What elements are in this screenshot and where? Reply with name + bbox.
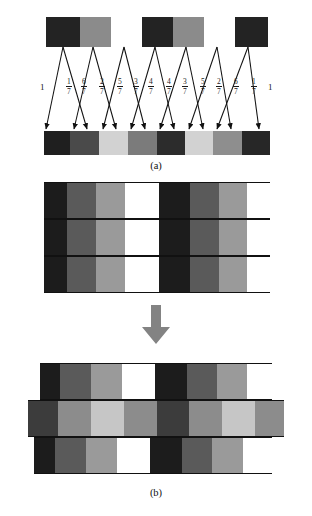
weight-denominator: 7 bbox=[233, 87, 239, 95]
weight-numerator: 3 bbox=[133, 78, 139, 87]
destination-cell bbox=[99, 131, 128, 155]
grid-cell bbox=[125, 183, 159, 218]
source-scanline-bar bbox=[46, 17, 268, 47]
offset-cell bbox=[189, 401, 222, 436]
weight-denominator: 7 bbox=[148, 87, 154, 95]
offset-cell bbox=[91, 364, 122, 399]
offset-cell bbox=[124, 401, 157, 436]
grid-cell bbox=[44, 220, 67, 255]
weight-denominator: 7 bbox=[182, 87, 188, 95]
destination-cell bbox=[157, 131, 185, 155]
grid-cell bbox=[219, 257, 247, 292]
weight-numerator: 2 bbox=[216, 78, 222, 87]
offset-block bbox=[0, 363, 312, 478]
weight-numerator: 5 bbox=[117, 78, 123, 87]
weight-label: 67 bbox=[81, 78, 87, 95]
destination-cell bbox=[185, 131, 213, 155]
offset-cell bbox=[182, 438, 212, 473]
offset-cell bbox=[86, 438, 117, 473]
aligned-block bbox=[44, 182, 270, 295]
grid-cell bbox=[247, 183, 270, 218]
weight-denominator: 7 bbox=[66, 87, 72, 95]
weight-numerator: 5 bbox=[200, 78, 206, 87]
weight-numerator: 2 bbox=[99, 78, 105, 87]
destination-cell bbox=[128, 131, 157, 155]
destination-cell bbox=[44, 131, 70, 155]
offset-cell bbox=[117, 438, 150, 473]
caption-a: (a) bbox=[0, 160, 312, 171]
grid-cell bbox=[159, 183, 190, 218]
down-arrow-svg bbox=[141, 305, 171, 345]
offset-cell bbox=[28, 401, 58, 436]
offset-cell bbox=[60, 364, 91, 399]
source-cell bbox=[173, 17, 204, 47]
grid-cell bbox=[247, 220, 270, 255]
offset-cell bbox=[187, 364, 217, 399]
grid-cell bbox=[67, 220, 96, 255]
source-cell bbox=[235, 17, 268, 47]
grid-cell bbox=[219, 220, 247, 255]
weight-denominator: 7 bbox=[166, 87, 172, 95]
weight-label: 47 bbox=[166, 78, 172, 95]
weight-label: 27 bbox=[216, 78, 222, 95]
down-arrow-icon bbox=[141, 305, 171, 345]
weight-numerator: 3 bbox=[182, 78, 188, 87]
weight-denominator: 7 bbox=[133, 87, 139, 95]
grid-cell bbox=[190, 183, 219, 218]
grid-cell bbox=[219, 183, 247, 218]
grid-cell bbox=[44, 257, 67, 292]
offset-cell bbox=[212, 438, 243, 473]
weight-label: 57 bbox=[117, 78, 123, 95]
offset-cell bbox=[91, 401, 124, 436]
weight-numerator: 1 bbox=[251, 78, 257, 87]
destination-cell bbox=[70, 131, 99, 155]
weight-numerator: 6 bbox=[81, 78, 87, 87]
offset-cell bbox=[222, 401, 255, 436]
grid-row bbox=[44, 219, 270, 256]
weight-denominator: 7 bbox=[117, 87, 123, 95]
figure-container: 11767275737474737572767171 (a) (b) bbox=[0, 0, 312, 516]
source-cell bbox=[80, 17, 111, 47]
weight-label: 27 bbox=[99, 78, 105, 95]
grid-cell bbox=[96, 220, 125, 255]
weight-denominator: 7 bbox=[216, 87, 222, 95]
weight-numerator: 6 bbox=[233, 78, 239, 87]
grid-cell bbox=[96, 183, 125, 218]
weight-label: 17 bbox=[66, 78, 72, 95]
offset-cell bbox=[40, 364, 60, 399]
weight-label: 67 bbox=[233, 78, 239, 95]
grid-cell bbox=[125, 257, 159, 292]
offset-cell bbox=[58, 401, 91, 436]
weight-numerator: 4 bbox=[166, 78, 172, 87]
weight-denominator: 7 bbox=[99, 87, 105, 95]
source-cell bbox=[46, 17, 80, 47]
weight-label: 37 bbox=[133, 78, 139, 95]
weight-numerator: 4 bbox=[148, 78, 154, 87]
offset-row bbox=[28, 400, 284, 437]
offset-cell bbox=[217, 364, 247, 399]
offset-cell bbox=[255, 401, 284, 436]
offset-cell bbox=[150, 438, 182, 473]
weight-denominator: 7 bbox=[200, 87, 206, 95]
source-cell bbox=[111, 17, 142, 47]
destination-scanline-bar bbox=[44, 131, 270, 155]
weight-denominator: 7 bbox=[81, 87, 87, 95]
weight-label: 57 bbox=[200, 78, 206, 95]
grid-cell bbox=[190, 220, 219, 255]
source-cell bbox=[142, 17, 173, 47]
weight-label: 1 bbox=[40, 78, 45, 92]
weight-label: 47 bbox=[148, 78, 154, 95]
grid-cell bbox=[44, 183, 67, 218]
offset-row bbox=[34, 437, 272, 474]
grid-cell bbox=[67, 257, 96, 292]
weight-label: 1 bbox=[268, 78, 273, 92]
offset-cell bbox=[155, 364, 187, 399]
grid-cell bbox=[190, 257, 219, 292]
grid-cell bbox=[96, 257, 125, 292]
weight-label: 37 bbox=[182, 78, 188, 95]
source-cell bbox=[204, 17, 235, 47]
weight-denominator: 7 bbox=[251, 87, 257, 95]
offset-row bbox=[40, 363, 272, 400]
weight-numerator: 1 bbox=[66, 78, 72, 87]
offset-cell bbox=[55, 438, 86, 473]
